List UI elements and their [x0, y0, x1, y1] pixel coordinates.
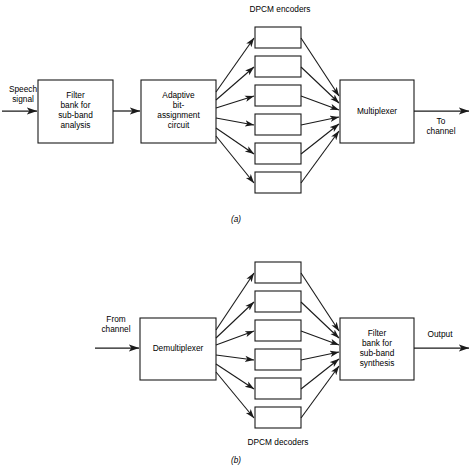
output-label: Output — [428, 329, 454, 339]
dpcm-encoder-box-5 — [255, 143, 301, 164]
panel-b-caption: (b) — [231, 456, 241, 465]
demux-fanout-arrow-1 — [216, 273, 254, 330]
fanin-arrow-4 — [301, 117, 339, 125]
filter-bank-analysis-line2: bank for — [61, 100, 91, 110]
fanin-arrow-1 — [301, 38, 339, 96]
multiplexer-label: Multiplexer — [357, 106, 397, 116]
dpcm-decoder-box-2 — [255, 291, 301, 312]
adaptive-bit-line2: bit- — [173, 100, 185, 110]
decoder-fanin-arrow-4 — [301, 352, 339, 360]
decoder-fanin-arrow-1 — [301, 273, 339, 331]
dpcm-encoder-box-3 — [255, 85, 301, 106]
adaptive-bit-line3: assignment — [157, 110, 200, 120]
fanout-arrow-3 — [216, 96, 254, 108]
dpcm-decoders-label: DPCM decoders — [248, 437, 309, 447]
dpcm-decoder-box-4 — [255, 349, 301, 370]
filter-bank-synthesis-line4: synthesis — [360, 358, 395, 368]
speech-signal-label-line1: Speech — [9, 84, 38, 94]
to-channel-label-line2: channel — [426, 126, 455, 136]
figure-container: DPCM encoders Speech signal Filter bank … — [0, 0, 472, 470]
dpcm-encoders-label: DPCM encoders — [250, 4, 311, 14]
filter-bank-analysis-line1: Filter — [66, 90, 85, 100]
from-channel-label-line2: channel — [101, 324, 130, 334]
block-diagram-svg: DPCM encoders Speech signal Filter bank … — [0, 0, 472, 470]
filter-bank-synthesis-line1: Filter — [368, 328, 387, 338]
filter-bank-synthesis-line3: sub-band — [360, 348, 395, 358]
dpcm-encoder-box-2 — [255, 56, 301, 77]
filter-bank-synthesis-line2: bank for — [362, 338, 392, 348]
demux-fanout-arrow-6 — [216, 372, 254, 418]
adaptive-bit-line4: circuit — [168, 120, 190, 130]
dpcm-decoder-box-3 — [255, 320, 301, 341]
demux-fanout-arrow-4 — [216, 355, 254, 360]
filter-bank-analysis-line3: sub-band — [58, 110, 93, 120]
dpcm-decoder-box-1 — [255, 262, 301, 283]
dpcm-encoder-box-4 — [255, 114, 301, 135]
dpcm-decoder-box-6 — [255, 407, 301, 428]
demultiplexer-label: Demultiplexer — [153, 343, 204, 353]
fanout-arrow-5 — [216, 128, 254, 154]
fanout-arrow-4 — [216, 118, 254, 125]
dpcm-encoder-box-1 — [255, 27, 301, 48]
panel-a-group: DPCM encoders Speech signal Filter bank … — [2, 4, 469, 224]
panel-b-group: From channel Demultiplexer — [95, 262, 469, 465]
dpcm-decoder-box-5 — [255, 378, 301, 399]
speech-signal-label-line2: signal — [12, 94, 34, 104]
from-channel-label-line1: From — [106, 314, 125, 324]
fanout-arrow-6 — [216, 136, 254, 183]
to-channel-label-line1: To — [437, 116, 446, 126]
adaptive-bit-line1: Adaptive — [162, 90, 195, 100]
filter-bank-analysis-line4: analysis — [61, 120, 91, 130]
dpcm-encoder-box-6 — [255, 172, 301, 193]
panel-a-caption: (a) — [231, 215, 241, 224]
demux-fanout-arrow-5 — [216, 364, 254, 389]
